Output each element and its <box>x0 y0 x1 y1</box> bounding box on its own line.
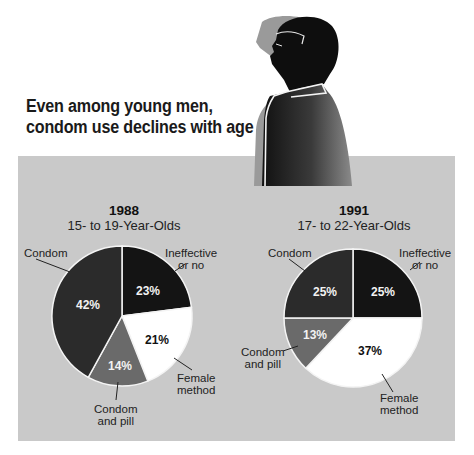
pct-1988-condom: 42% <box>76 299 100 311</box>
pct-1988-condom-and-pill: 14% <box>108 360 132 372</box>
label-1991-condom: Condom <box>268 247 311 259</box>
pct-1991-female-method: 37% <box>358 345 382 357</box>
pie-1988-year: 1988 <box>24 203 224 218</box>
pie-1988-title: 1988 15- to 19-Year-Olds <box>24 203 224 234</box>
pie-1988-group: 15- to 19-Year-Olds <box>24 218 224 234</box>
pie-1991-title: 1991 17- to 22-Year-Olds <box>254 203 454 234</box>
label-1988-condom-and-pill: Condom and pill <box>94 403 137 427</box>
pie-1991-group: 17- to 22-Year-Olds <box>254 218 454 234</box>
pct-1991-condom: 25% <box>313 286 337 298</box>
pct-1991-condom-and-pill: 13% <box>303 329 327 341</box>
label-1991-ineffective: Ineffective or no <box>399 247 451 271</box>
label-1988-ineffective: Ineffective or no <box>165 247 217 271</box>
pct-1988-ineffective: 23% <box>136 285 160 297</box>
pct-1991-ineffective: 25% <box>371 286 395 298</box>
label-1991-condom-and-pill: Condom and pill <box>241 346 284 370</box>
label-1988-female-method: Female method <box>177 372 215 396</box>
label-1988-condom: Condom <box>24 247 67 259</box>
label-1991-female-method: Female method <box>380 392 418 416</box>
pct-1988-female-method: 21% <box>145 334 169 346</box>
slice-1991-condom <box>284 249 353 318</box>
pie-1991-year: 1991 <box>254 203 454 218</box>
